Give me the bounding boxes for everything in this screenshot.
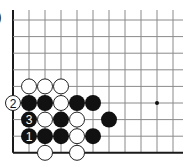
black-stone bbox=[37, 95, 53, 111]
white-stone-icon bbox=[38, 112, 53, 127]
white-stone-icon bbox=[54, 79, 69, 94]
white-stone bbox=[38, 112, 53, 127]
white-stone bbox=[54, 79, 69, 94]
white-stone-icon bbox=[70, 112, 85, 127]
white-stone bbox=[70, 129, 85, 144]
black-stone-icon bbox=[85, 95, 101, 111]
move-number-label: 3 bbox=[26, 113, 33, 127]
black-stone bbox=[21, 95, 37, 111]
black-stone: 1 bbox=[21, 128, 37, 144]
black-stone-icon bbox=[37, 95, 53, 111]
white-stone bbox=[38, 79, 53, 94]
black-stone-icon bbox=[101, 112, 117, 128]
black-stone bbox=[53, 128, 69, 144]
black-stone bbox=[37, 128, 53, 144]
black-stone-icon bbox=[85, 128, 101, 144]
black-stone-icon bbox=[69, 95, 85, 111]
black-stone bbox=[101, 112, 117, 128]
black-stone bbox=[85, 95, 101, 111]
white-stone bbox=[70, 112, 85, 127]
black-stone-icon bbox=[37, 128, 53, 144]
white-stone-icon bbox=[38, 145, 53, 160]
white-stone-icon bbox=[22, 79, 37, 94]
go-board-diagram: 231 bbox=[0, 0, 187, 167]
white-stone-icon bbox=[38, 79, 53, 94]
white-stone-icon bbox=[70, 129, 85, 144]
white-stone bbox=[54, 96, 69, 111]
black-stone-icon bbox=[53, 128, 69, 144]
black-stone-icon bbox=[53, 112, 69, 128]
black-stone bbox=[85, 128, 101, 144]
black-stone-icon bbox=[21, 95, 37, 111]
white-stone-icon bbox=[70, 145, 85, 160]
white-stone-icon bbox=[54, 96, 69, 111]
black-stone bbox=[69, 95, 85, 111]
star-point bbox=[155, 101, 159, 105]
white-stone bbox=[22, 79, 37, 94]
white-stone bbox=[38, 145, 53, 160]
white-stone: 2 bbox=[6, 96, 21, 111]
move-number-label: 2 bbox=[10, 97, 17, 111]
white-stone bbox=[70, 145, 85, 160]
move-number-label: 1 bbox=[26, 130, 33, 144]
star-points bbox=[155, 101, 159, 105]
black-stone bbox=[53, 112, 69, 128]
black-stone: 3 bbox=[21, 112, 37, 128]
